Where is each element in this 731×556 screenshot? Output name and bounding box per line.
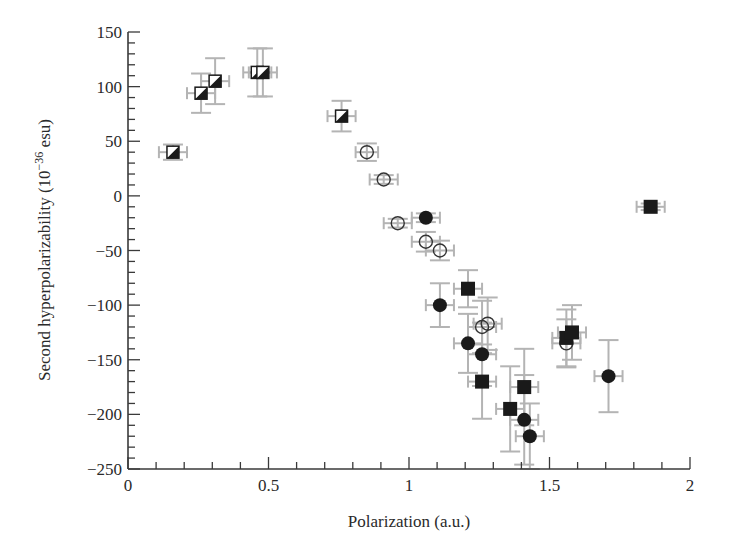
filled-circle-marker [523, 429, 537, 443]
filled-square-marker [517, 380, 531, 394]
x-tick-label: 2 [686, 476, 695, 495]
data-markers [167, 66, 658, 443]
filled-square-marker [461, 282, 475, 296]
y-tick-label: −250 [87, 460, 122, 479]
filled-circle-marker [517, 413, 531, 427]
filled-circle-marker [475, 347, 489, 361]
filled-square-marker [475, 375, 489, 389]
half-filled-square-marker [257, 66, 269, 78]
filled-square-marker [503, 402, 517, 416]
y-label-exponent: −36 [32, 152, 46, 171]
y-tick-label: −50 [95, 242, 122, 261]
y-tick-label: −200 [87, 405, 122, 424]
error-bar [384, 217, 412, 229]
half-filled-square-marker [336, 110, 348, 122]
x-tick-label: 1 [405, 476, 414, 495]
x-tick-label: 1.5 [539, 476, 560, 495]
y-tick-label: 0 [114, 187, 123, 206]
x-axis-label: Polarization (a.u.) [348, 512, 470, 531]
half-filled-square-marker [195, 87, 207, 99]
error-bar [370, 173, 398, 185]
y-tick-label: −150 [87, 351, 122, 370]
y-label-main: Second hyperpolarizability (10 [35, 170, 54, 381]
y-tick-label: −100 [87, 296, 122, 315]
filled-circle-marker [433, 298, 447, 312]
y-tick-label: 150 [97, 23, 123, 42]
y-tick-label: 100 [97, 78, 123, 97]
x-tick-label: 0 [124, 476, 133, 495]
filled-circle-marker [461, 336, 475, 350]
y-tick-label: 50 [105, 132, 122, 151]
filled-circle-marker [602, 369, 616, 383]
half-filled-square-marker [209, 75, 221, 87]
scatter-chart: 00.511.52150100500−50−100−150−200−250 Po… [0, 0, 731, 556]
error-bars [159, 48, 665, 469]
half-filled-square-marker [167, 146, 179, 158]
y-label-unit: esu) [35, 119, 54, 152]
filled-circle-marker [419, 211, 433, 225]
filled-square-marker [644, 200, 658, 214]
axes: 00.511.52150100500−50−100−150−200−250 [87, 23, 694, 495]
x-tick-label: 0.5 [258, 476, 279, 495]
filled-square-marker [565, 325, 579, 339]
y-axis-label: Second hyperpolarizability (10−36 esu) [32, 119, 54, 381]
